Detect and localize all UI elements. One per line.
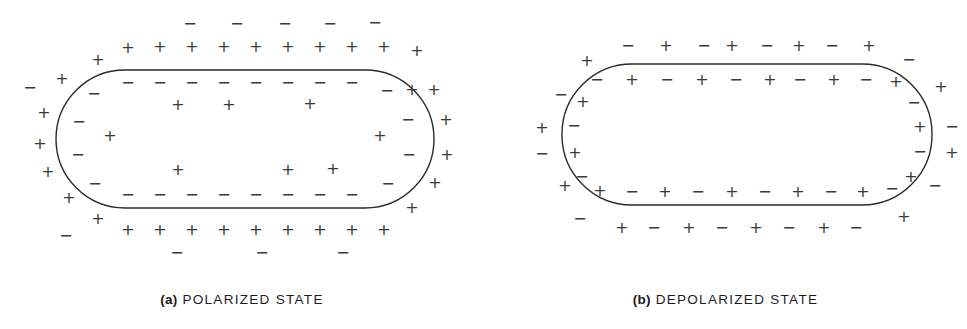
- panel-depolarized-state: +−+−+−+−+−−+−++−+−−+−+−+−+−+−+−+−+−+−++−…: [484, 0, 967, 329]
- cell-diagram-polarized: −−−−−+++++++++++−+++++++++++++++++++++−−…: [0, 0, 484, 270]
- caption-text-a: POLARIZED STATE: [182, 292, 323, 307]
- caption-text-b: DEPOLARIZED STATE: [656, 292, 819, 307]
- caption-label-a: (a): [160, 292, 177, 307]
- caption-depolarized: (b) DEPOLARIZED STATE: [484, 292, 967, 307]
- cell-membrane-outline-depolarized: [484, 0, 967, 270]
- cell-diagram-depolarized: +−+−+−+−+−−+−++−+−−+−+−+−+−+−+−+−+−+−++−…: [484, 0, 967, 270]
- caption-polarized: (a) POLARIZED STATE: [0, 292, 484, 307]
- panel-polarized-state: −−−−−+++++++++++−+++++++++++++++++++++−−…: [0, 0, 484, 329]
- cell-membrane-outline-polarized: [0, 0, 484, 270]
- figure-root: −−−−−+++++++++++−+++++++++++++++++++++−−…: [0, 0, 967, 329]
- caption-label-b: (b): [633, 292, 651, 307]
- membrane-path: [562, 64, 932, 205]
- membrane-path: [56, 70, 434, 208]
